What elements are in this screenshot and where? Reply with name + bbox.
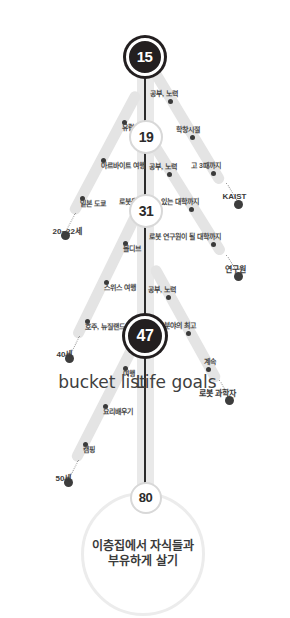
milestone-node-15[interactable]: 15	[126, 38, 164, 76]
milestone-node-47-label: 47	[137, 327, 154, 345]
milestone-node-19[interactable]: 19	[129, 120, 163, 154]
milestone-node-31[interactable]: 31	[129, 194, 163, 228]
bucket-branch-3-endpoint-label: 50세	[56, 472, 72, 483]
bucket-branch-3-step-label-2: 요리배우기	[103, 406, 133, 416]
milestone-node-47[interactable]: 47	[125, 316, 165, 356]
life-branch-1-step-dot-3	[211, 171, 216, 176]
life-branch-3-step-label-3: 계속	[204, 356, 216, 366]
life-branch-3-step-dot-1	[166, 295, 171, 300]
life-branch-1-step-dot-1	[168, 99, 173, 104]
life-branch-2-step-label-3: 로봇 연구원이 될 대학까지	[149, 231, 221, 241]
life-branch-3-step-label-1: 공부, 노력	[148, 284, 176, 294]
bucket-branch-2-step-label-1: 몰디브	[123, 243, 141, 253]
section-label-bucket-list: bucket list	[58, 372, 146, 392]
milestone-node-31-label: 31	[139, 203, 154, 219]
roadmap-diagram: 공부, 노력 학창시절 고 3때까지 KAIST 공부, 노력 로봇을 만들 수…	[0, 0, 290, 618]
section-label-life-goals: Life goals	[135, 372, 216, 392]
bucket-branch-2-step-label-3: 호주, 뉴질랜드	[85, 321, 125, 331]
milestone-node-15-label: 15	[137, 49, 153, 66]
life-branch-2-step-label-1: 공부, 노력	[149, 161, 177, 171]
final-goal-text: 이층집에서 자식들과 부유하게 살기	[91, 539, 195, 569]
life-branch-1-step-label-3: 고 3때까지	[191, 160, 221, 170]
bucket-branch-1-step-label-2: 아르바이트 여행	[101, 160, 145, 170]
bucket-branch-2-step-label-2: 스위스 여행	[104, 282, 136, 292]
life-branch-1-step-label-2: 학창시절	[176, 124, 200, 134]
bucket-branch-2-endpoint-label: 40세	[57, 348, 73, 359]
milestone-node-19-label: 19	[139, 129, 154, 145]
life-branch-2-step-dot-1	[167, 172, 172, 177]
bucket-branch-3-step-label-3: 캠핑	[83, 444, 95, 454]
life-branch-1-endpoint-label: KAIST	[223, 192, 247, 201]
life-branch-2-step-dot-2	[189, 207, 194, 212]
milestone-node-80[interactable]: 80	[130, 482, 162, 514]
life-branch-2-endpoint-label: 연구원	[225, 263, 246, 274]
life-branch-1-endpoint-dot	[234, 200, 243, 209]
milestone-node-80-label: 80	[139, 491, 152, 506]
life-branch-1-step-dot-2	[190, 135, 195, 140]
life-branch-2-step-dot-3	[211, 242, 216, 247]
bucket-branch-3	[70, 336, 142, 464]
life-branch-1-step-label-1: 공부, 노력	[150, 88, 178, 98]
bucket-branch-1-step-label-3: 일본 도쿄	[80, 198, 106, 208]
life-branch-3-step-dot-2	[186, 331, 191, 336]
diagram-canvas: 공부, 노력 학창시절 고 3때까지 KAIST 공부, 노력 로봇을 만들 수…	[0, 0, 290, 618]
bucket-branch-1-endpoint-label: 20~22세	[53, 225, 82, 236]
